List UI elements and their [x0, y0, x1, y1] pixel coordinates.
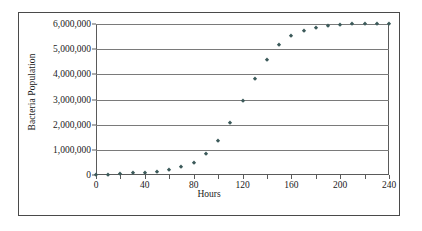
y-tick-label: 6,000,000	[53, 19, 91, 29]
gridline	[96, 150, 389, 151]
x-tick-mark	[316, 175, 317, 179]
x-tick-mark	[145, 175, 146, 179]
data-point	[350, 22, 355, 27]
data-point	[338, 22, 343, 27]
gridline	[96, 49, 389, 50]
data-point	[362, 22, 367, 27]
data-point	[374, 22, 379, 27]
y-tick-mark	[92, 24, 96, 25]
data-point	[313, 25, 318, 30]
x-tick-mark	[291, 175, 292, 179]
gridline	[96, 24, 389, 25]
x-tick-mark	[194, 175, 195, 179]
x-tick-mark	[340, 175, 341, 179]
plot-area: 01,000,0002,000,0003,000,0004,000,0005,0…	[96, 24, 389, 175]
y-tick-label: 3,000,000	[53, 95, 91, 105]
data-point	[265, 58, 270, 63]
data-point	[118, 172, 123, 177]
y-axis-title: Bacteria Population	[27, 17, 37, 167]
y-tick-label: 1,000,000	[53, 145, 91, 155]
gridline	[96, 125, 389, 126]
gridline	[96, 74, 389, 75]
x-tick-mark	[389, 175, 390, 179]
data-point	[130, 171, 135, 176]
x-tick-mark	[243, 175, 244, 179]
x-tick-mark	[267, 175, 268, 179]
data-point	[252, 77, 257, 82]
data-point	[216, 139, 221, 144]
y-tick-label: 5,000,000	[53, 44, 91, 54]
data-point	[203, 151, 208, 156]
x-tick-mark	[365, 175, 366, 179]
data-point	[179, 165, 184, 170]
y-tick-mark	[92, 149, 96, 150]
chart-figure: Bacteria Population 01,000,0002,000,0003…	[18, 12, 400, 216]
x-axis-title: Hours	[19, 189, 399, 199]
y-tick-label: 2,000,000	[53, 120, 91, 130]
data-point	[191, 160, 196, 165]
data-point	[387, 22, 392, 27]
data-point	[301, 29, 306, 34]
y-tick-label: 0	[86, 170, 91, 180]
y-tick-mark	[92, 99, 96, 100]
x-tick-mark	[218, 175, 219, 179]
y-tick-mark	[92, 74, 96, 75]
data-point	[289, 34, 294, 39]
data-point	[167, 168, 172, 173]
data-point	[106, 172, 111, 177]
x-tick-mark	[169, 175, 170, 179]
data-point	[240, 99, 245, 104]
y-tick-mark	[92, 124, 96, 125]
y-tick-label: 4,000,000	[53, 69, 91, 79]
y-tick-mark	[92, 49, 96, 50]
data-point	[277, 43, 282, 48]
